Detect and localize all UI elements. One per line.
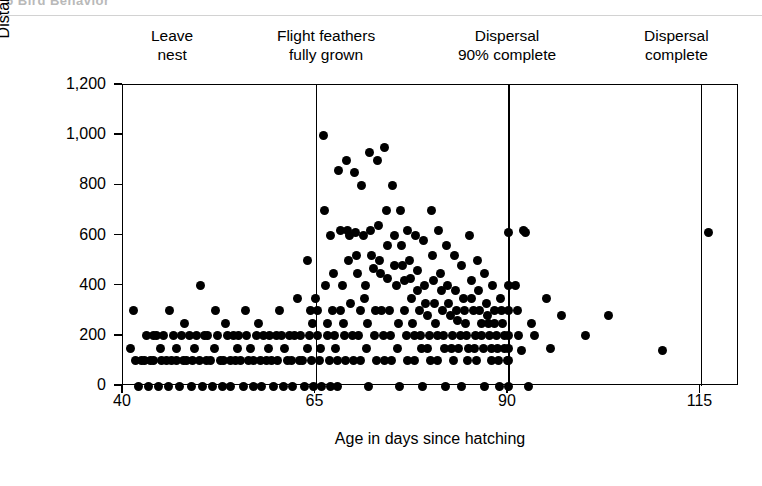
- scatter-point: [320, 206, 329, 215]
- y-tick-label: 1,200: [40, 76, 106, 92]
- y-axis-title: Distance from nest (m): [0, 0, 16, 108]
- scatter-point: [465, 231, 474, 240]
- scatter-point: [303, 344, 312, 353]
- scatter-point: [144, 382, 153, 391]
- scatter-point: [423, 311, 432, 320]
- y-tick-mark: [114, 334, 122, 336]
- annotation-dispersal-90-complete: Dispersal 90% complete: [417, 26, 597, 64]
- scatter-point: [457, 382, 466, 391]
- scatter-point: [156, 344, 165, 353]
- scatter-point: [470, 344, 479, 353]
- scatter-point: [210, 344, 219, 353]
- x-tick-mark: [699, 385, 701, 393]
- y-tick-mark: [114, 284, 122, 286]
- scatter-point: [467, 276, 476, 285]
- scatter-point: [321, 281, 330, 290]
- plot-frame: [122, 84, 738, 385]
- scatter-point: [450, 251, 459, 260]
- scatter-point: [221, 319, 230, 328]
- scatter-point: [496, 294, 505, 303]
- scatter-point: [298, 356, 307, 365]
- y-tick-label: 400: [40, 277, 106, 293]
- scatter-point: [339, 319, 348, 328]
- y-tick-label: 0: [40, 377, 106, 393]
- scatter-point: [280, 344, 289, 353]
- scatter-point: [504, 306, 513, 315]
- header-divider-rule: [0, 15, 762, 16]
- scatter-point: [360, 294, 369, 303]
- scatter-point: [423, 344, 432, 353]
- scatter-point: [296, 331, 305, 340]
- x-tick-mark: [506, 385, 508, 393]
- scatter-point: [457, 261, 466, 270]
- scatter-point: [410, 356, 419, 365]
- annotation-flight-feathers-fully-grown: Flight feathers fully grown: [236, 26, 416, 64]
- x-tick-mark: [121, 385, 123, 393]
- y-tick-label: 600: [40, 227, 106, 243]
- scatter-point: [542, 294, 551, 303]
- scatter-point: [511, 281, 520, 290]
- scatter-point: [126, 344, 135, 353]
- scatter-point: [333, 382, 342, 391]
- scatter-point: [313, 331, 322, 340]
- scatter-point: [408, 319, 417, 328]
- scatter-point: [242, 331, 251, 340]
- scatter-point: [129, 306, 138, 315]
- scatter-point: [527, 319, 536, 328]
- scatter-point: [406, 274, 415, 283]
- scatter-point: [517, 346, 526, 355]
- scatter-point: [467, 294, 476, 303]
- scatter-point: [357, 181, 366, 190]
- scatter-point: [480, 382, 489, 391]
- scatter-point: [361, 281, 370, 290]
- scatter-point: [363, 319, 372, 328]
- scatter-point: [428, 251, 437, 260]
- scatter-point: [513, 306, 522, 315]
- scatter-point: [704, 228, 713, 237]
- scatter-point: [356, 356, 365, 365]
- scatter-point: [375, 256, 384, 265]
- scatter-point: [315, 356, 324, 365]
- scatter-point: [342, 156, 351, 165]
- scatter-point: [159, 331, 168, 340]
- x-tick-label: 65: [275, 392, 355, 410]
- scatter-point: [246, 344, 255, 353]
- scatter-point: [494, 356, 503, 365]
- scatter-point: [524, 382, 533, 391]
- scatter-point: [175, 382, 184, 391]
- scatter-point: [293, 294, 302, 303]
- scatter-point: [444, 299, 453, 308]
- scatter-point: [172, 344, 181, 353]
- scatter-point: [394, 319, 403, 328]
- scatter-point: [353, 269, 362, 278]
- scatter-point: [431, 319, 440, 328]
- scatter-point: [190, 344, 199, 353]
- scatter-point: [418, 382, 427, 391]
- annotation-dispersal-complete: Dispersal complete: [586, 26, 762, 64]
- scatter-point: [413, 266, 422, 275]
- scatter-point: [449, 356, 458, 365]
- scatter-point: [308, 319, 317, 328]
- scatter-point: [504, 356, 513, 365]
- scatter-point: [407, 294, 416, 303]
- scatter-point: [338, 281, 347, 290]
- scatter-point: [187, 382, 196, 391]
- scatter-point: [352, 251, 361, 260]
- scatter-point: [419, 236, 428, 245]
- scatter-point: [451, 286, 460, 295]
- figure-root: 6 Bird Behavior Leave nestFlight feather…: [0, 0, 762, 486]
- scatter-point: [604, 311, 613, 320]
- scatter-point: [436, 269, 445, 278]
- scatter-point: [521, 228, 530, 237]
- scatter-point: [488, 281, 497, 290]
- scatter-point: [395, 382, 404, 391]
- scatter-point: [454, 344, 463, 353]
- scatter-point: [362, 344, 371, 353]
- scatter-point: [495, 382, 504, 391]
- scatter-point: [473, 256, 482, 265]
- scatter-point: [380, 143, 389, 152]
- scatter-point: [356, 306, 365, 315]
- scatter-point: [198, 382, 207, 391]
- scatter-point: [303, 256, 312, 265]
- scatter-points-layer: [123, 85, 739, 386]
